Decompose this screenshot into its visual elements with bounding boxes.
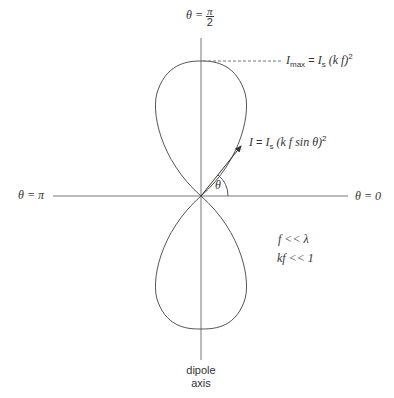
theta-lhs: θ = bbox=[186, 8, 203, 22]
intensity-arrow bbox=[201, 146, 241, 196]
imax-sup: 2 bbox=[348, 52, 352, 61]
imax-sub: max bbox=[290, 60, 305, 69]
pi-over-2-fraction: π 2 bbox=[206, 6, 214, 27]
dipole-axis-line2: axis bbox=[181, 377, 221, 390]
imax-label: Imax = Is (k f)2 bbox=[286, 52, 353, 69]
dipole-axis-line1: dipole bbox=[181, 364, 221, 377]
theta-pi-over-2-label: θ = π 2 bbox=[186, 6, 214, 27]
theta-angle-label: θ bbox=[215, 178, 221, 193]
i-sup: 2 bbox=[322, 134, 326, 143]
i-paren: (k f sin θ) bbox=[274, 135, 323, 149]
theta-pi-label: θ = π bbox=[18, 188, 44, 203]
condition-kf: kf << 1 bbox=[277, 251, 314, 266]
theta-zero-label: θ = 0 bbox=[355, 189, 381, 204]
condition-f-lambda: f << λ bbox=[278, 232, 309, 247]
imax-paren: (k f) bbox=[326, 53, 349, 67]
imax-eq: = bbox=[305, 54, 318, 66]
dipole-axis-label: dipole axis bbox=[181, 364, 221, 390]
frac-den: 2 bbox=[206, 17, 214, 27]
intensity-formula-label: I = Is (k f sin θ)2 bbox=[249, 134, 327, 151]
i-eq: = bbox=[253, 136, 266, 148]
